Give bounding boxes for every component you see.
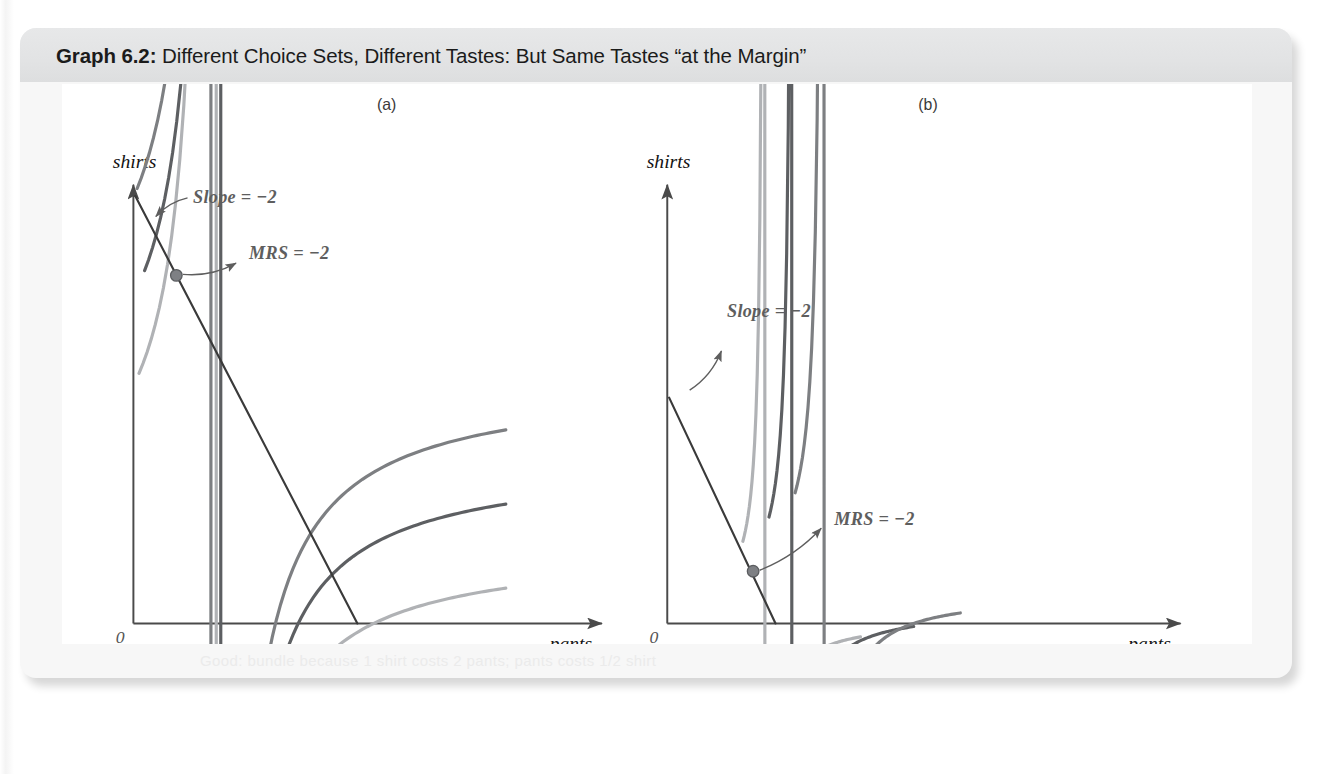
mrs-annotation: MRS = −2 <box>833 509 914 529</box>
indifference-curve-low <box>743 84 861 644</box>
indifference-curve-low <box>139 84 506 644</box>
origin-label: 0 <box>116 627 125 644</box>
slope-annotation: Slope = −2 <box>727 301 811 321</box>
mrs-annotation: MRS = −2 <box>248 243 329 263</box>
page-edge-shadow <box>0 0 14 774</box>
tangency-point <box>747 565 759 577</box>
plot-area: (a)shirtspants0Slope = −2MRS = −2(b)shir… <box>62 84 1252 644</box>
figure-card: Graph 6.2: Different Choice Sets, Differ… <box>20 28 1292 678</box>
figure-caption: Graph 6.2: Different Choice Sets, Differ… <box>56 44 806 68</box>
origin-label: 0 <box>650 627 659 644</box>
indifference-curve-high <box>795 84 960 644</box>
slope-leader-line <box>690 351 722 390</box>
graph-canvas: (a)shirtspants0Slope = −2MRS = −2(b)shir… <box>62 84 1252 644</box>
tangency-point <box>171 270 183 282</box>
figure-number: Graph 6.2: <box>56 44 156 67</box>
figure-title: Different Choice Sets, Different Tastes:… <box>162 44 806 67</box>
panel-letter-b: (b) <box>918 96 937 113</box>
scanned-page: Graph 6.2: Different Choice Sets, Differ… <box>0 0 1334 774</box>
bleed-through-text: Good: bundle because 1 shirt costs 2 pan… <box>200 652 656 669</box>
x-axis-label: pants <box>548 633 593 644</box>
x-axis-label: pants <box>1126 633 1171 644</box>
panel-letter-a: (a) <box>377 96 396 113</box>
panel-b: (b)shirtspants0Slope = −2MRS = −2 <box>647 84 1181 644</box>
budget-line <box>669 398 775 624</box>
indifference-curve-mid <box>769 84 914 644</box>
slope-annotation: Slope = −2 <box>193 187 277 207</box>
panel-a: (a)shirtspants0Slope = −2MRS = −2 <box>113 84 602 644</box>
indifference-curve-high <box>137 84 506 644</box>
y-axis-label: shirts <box>647 151 691 172</box>
